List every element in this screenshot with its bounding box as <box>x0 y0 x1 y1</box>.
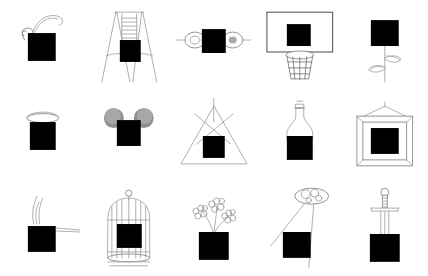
sketch-cell-swing-set <box>86 0 172 92</box>
sketch-cell-balloon-kite <box>257 184 343 276</box>
sketch-cell-rose-flower <box>342 0 428 92</box>
lidded-cup-icon <box>27 112 59 150</box>
sketch-grid <box>0 0 428 276</box>
sketch-cell-flower-pot <box>171 184 257 276</box>
sketch-cell-teepee-tent <box>171 92 257 184</box>
coconut-drink-icon <box>22 16 63 61</box>
sketch-cell-basketball-hoop <box>257 0 343 92</box>
sketch-cell-sword-in-stone <box>342 184 428 276</box>
sketch-cell-dumbbell <box>171 0 257 92</box>
bottle-flask-icon <box>287 101 313 160</box>
basketball-hoop-icon <box>267 12 333 80</box>
picture-frame-icon <box>357 102 413 166</box>
sketch-cell-picture-frame <box>342 92 428 184</box>
teepee-tent-icon <box>181 98 247 164</box>
sketch-cell-smoking-ashtray <box>0 184 86 276</box>
sword-in-stone-icon <box>370 188 400 262</box>
sketch-cell-birdcage <box>86 184 172 276</box>
rose-flower-icon <box>369 20 401 82</box>
sketch-cell-lidded-cup <box>0 92 86 184</box>
birdcage-icon <box>107 190 149 266</box>
sketch-cell-coconut-drink <box>0 0 86 92</box>
mouse-ears-icon <box>104 108 154 146</box>
swing-set-icon <box>102 12 157 82</box>
flower-pot-icon <box>193 198 236 260</box>
dumbbell-icon <box>177 29 251 53</box>
balloon-kite-icon <box>271 188 329 268</box>
sketch-cell-bottle-flask <box>257 92 343 184</box>
sketch-cell-mouse-ears <box>86 92 172 184</box>
smoking-ashtray-icon <box>28 196 80 252</box>
